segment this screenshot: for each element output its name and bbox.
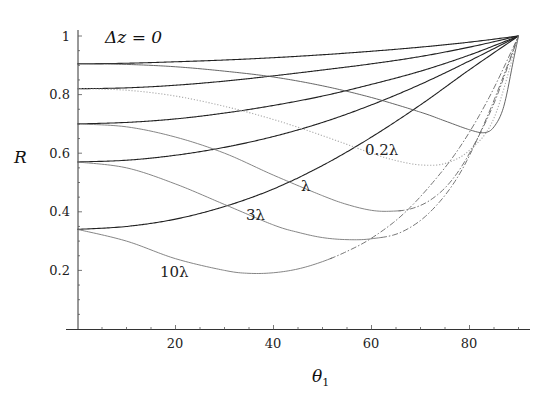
- curve-lower-10: [78, 229, 333, 273]
- curve-label-3-lambda: 3λ: [246, 206, 266, 224]
- x-tick-labels: 20 40 60 80: [167, 336, 478, 351]
- y-ticks: [78, 36, 82, 314]
- x-ticks: [102, 325, 519, 330]
- curves: [78, 36, 519, 274]
- y-tick-label-0.6: 0.6: [49, 146, 70, 161]
- curve-label-10-lambda: 10λ: [160, 263, 189, 281]
- x-tick-label-60: 60: [363, 336, 380, 351]
- curve-lower--dashed: [398, 36, 518, 211]
- curve-lower-10-dashed: [330, 36, 519, 259]
- x-axis-label-sub: 1: [322, 376, 329, 389]
- chart-title: Δz = 0: [104, 27, 162, 47]
- curve-lower-3-dashed: [381, 36, 519, 238]
- axes: [66, 30, 530, 330]
- y-tick-label-1: 1: [62, 29, 70, 44]
- x-tick-label-20: 20: [167, 336, 184, 351]
- reflectance-chart: 1 0.8 0.6 0.4 0.2 20 40 60 80 Δz = 0 R θ…: [0, 0, 556, 399]
- curve-label-lambda: λ: [301, 177, 311, 195]
- y-axis-label: R: [13, 147, 27, 167]
- x-axis-label: θ1: [312, 366, 329, 389]
- y-tick-label-0.4: 0.4: [49, 204, 70, 219]
- curve-upper-3: [78, 36, 519, 124]
- x-axis-label-main: θ: [312, 366, 322, 386]
- y-tick-label-0.8: 0.8: [49, 87, 70, 102]
- x-tick-label-40: 40: [265, 336, 282, 351]
- curve-upper-4: [78, 36, 519, 162]
- curve-label-0.2-lambda: 0.2λ: [365, 141, 399, 159]
- x-tick-label-80: 80: [461, 336, 478, 351]
- y-tick-label-0.2: 0.2: [49, 263, 70, 278]
- y-tick-labels: 1 0.8 0.6 0.4 0.2: [49, 29, 70, 278]
